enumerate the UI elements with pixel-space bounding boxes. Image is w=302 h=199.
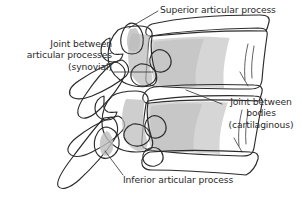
label-line-1: Joint between (50, 38, 112, 49)
label-joint-between-articular-processes: Joint between articular processes (synov… (4, 38, 112, 72)
label-line-3: (cartilaginous) (229, 119, 294, 130)
label-joint-between-bodies: Joint between bodies (cartilaginous) (222, 96, 300, 130)
intervertebral-disc-upper (146, 15, 269, 36)
label-line-1: Joint between (230, 96, 292, 107)
inferior-facet-notch (95, 96, 117, 120)
label-line-3: (synovial) (68, 61, 112, 72)
leader-superior-articular-process (129, 11, 158, 28)
superior-vertebra-body (146, 28, 267, 89)
label-line-2: bodies (246, 107, 276, 118)
label-superior-articular-process: Superior articular process (160, 4, 276, 15)
label-line-2: articular processes (27, 49, 112, 60)
label-inferior-articular-process: Inferior articular process (123, 174, 233, 185)
